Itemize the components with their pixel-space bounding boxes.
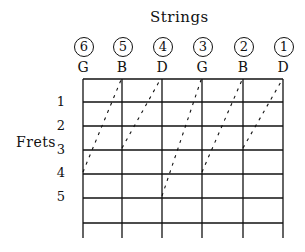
slide-paths [83,80,282,196]
fretboard-grid [0,0,305,252]
